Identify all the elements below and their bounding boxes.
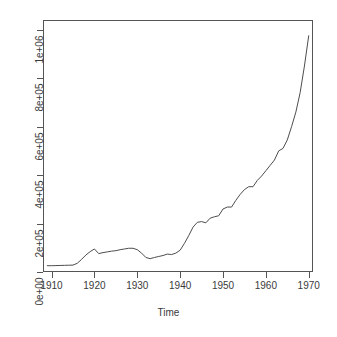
- chart-plot-area: 0e+002e+054e+056e+058e+051e+06 191019201…: [0, 0, 337, 337]
- x-tick-label: 1960: [255, 281, 277, 291]
- x-tick-label: 1970: [298, 281, 320, 291]
- x-tick-mark: [94, 272, 95, 278]
- x-tick-label: 1930: [126, 281, 148, 291]
- x-tick-label: 1950: [212, 281, 234, 291]
- x-tick-mark: [180, 272, 181, 278]
- x-tick-label: 1910: [40, 281, 62, 291]
- x-axis-title: Time: [0, 307, 337, 318]
- series-layer: [43, 20, 313, 272]
- y-tick-label: 6e+05: [0, 122, 34, 132]
- series-line-series-1: [47, 36, 308, 266]
- x-tick-mark: [309, 272, 310, 278]
- x-tick-mark: [52, 272, 53, 278]
- x-tick-mark: [266, 272, 267, 278]
- y-tick-label: 4e+05: [0, 170, 34, 180]
- x-tick-label: 1940: [169, 281, 191, 291]
- y-tick-label: 0e+00: [0, 267, 34, 277]
- x-tick-label: 1920: [83, 281, 105, 291]
- x-tick-mark: [137, 272, 138, 278]
- y-tick-label: 8e+05: [0, 73, 34, 83]
- y-tick-label: 1e+06: [0, 25, 34, 35]
- x-tick-mark: [223, 272, 224, 278]
- y-tick-label: 2e+05: [0, 219, 34, 229]
- y-tick-mark: [37, 272, 43, 273]
